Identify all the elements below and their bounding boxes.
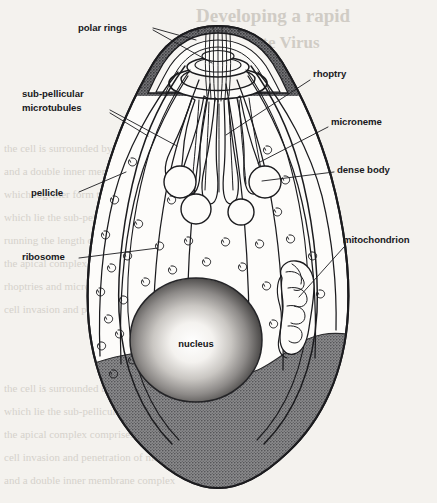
label-dense-body: dense body: [337, 164, 391, 175]
label-microtubules: microtubules: [22, 102, 82, 113]
nucleus: nucleus: [130, 278, 262, 402]
label-ribosome: ribosome: [22, 251, 65, 262]
label-sub-pellicular: sub-pellicular: [22, 88, 84, 99]
label-mitochondrion: mitochondrion: [343, 234, 410, 245]
dense-body-2: [249, 166, 281, 198]
label-microneme: microneme: [331, 116, 382, 127]
label-pellicle: pellicle: [31, 187, 63, 198]
cell-diagram: Developing a rapid Candidate Virus the c…: [0, 0, 437, 503]
label-rhoptry: rhoptry: [313, 68, 347, 79]
nucleus-label: nucleus: [178, 338, 213, 349]
dense-body-3: [181, 194, 211, 224]
label-polar-rings: polar rings: [78, 22, 127, 33]
figure-page: Developing a rapid Candidate Virus the c…: [0, 0, 437, 503]
bleed-body-line-13: and a double inner membrane complex: [4, 474, 176, 486]
dense-body-4: [228, 199, 254, 225]
dense-body-1: [164, 166, 196, 198]
bleed-title-line-1: Developing a rapid: [196, 5, 351, 26]
